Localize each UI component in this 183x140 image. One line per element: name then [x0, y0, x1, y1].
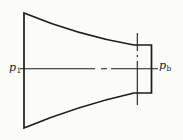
nozzle-diagram-svg — [0, 0, 183, 140]
inlet-pressure-subscript: 1 — [17, 66, 22, 75]
nozzle-diagram: p1 pb — [0, 0, 183, 140]
inlet-pressure-label: p1 — [9, 62, 21, 74]
back-pressure-subscript: b — [167, 64, 172, 73]
back-pressure-label: pb — [159, 60, 171, 72]
inlet-pressure-symbol: p — [9, 61, 16, 74]
back-pressure-symbol: p — [159, 59, 166, 72]
diagram-background — [0, 0, 183, 140]
